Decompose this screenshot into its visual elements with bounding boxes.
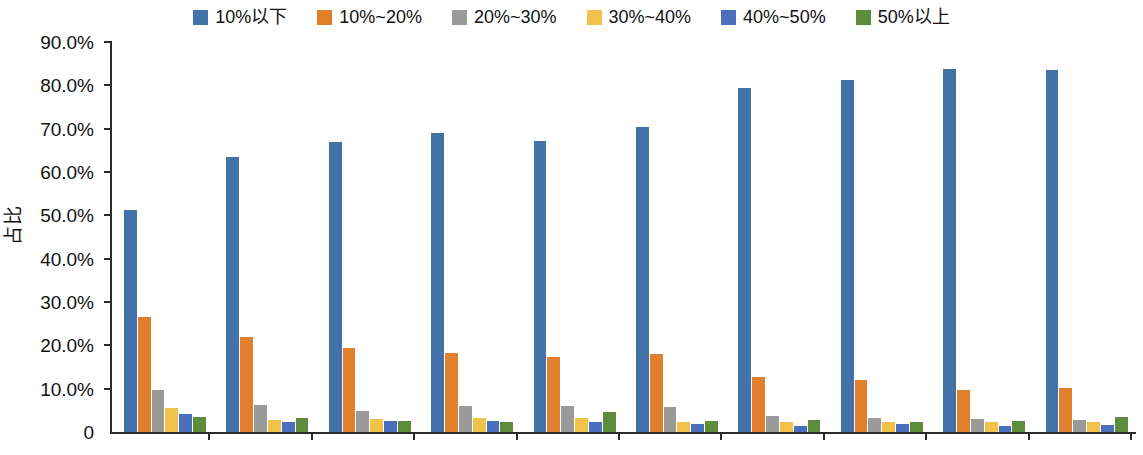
bar[interactable] <box>766 416 779 432</box>
bar[interactable] <box>500 422 513 432</box>
bar[interactable] <box>589 422 602 432</box>
legend-swatch-icon <box>587 10 602 25</box>
bar[interactable] <box>1012 421 1025 432</box>
bar[interactable] <box>636 127 649 433</box>
bar[interactable] <box>356 411 369 432</box>
bar[interactable] <box>985 422 998 432</box>
bar[interactable] <box>575 418 588 432</box>
bar[interactable] <box>431 133 444 432</box>
bar[interactable] <box>1073 420 1086 432</box>
bar[interactable] <box>329 142 342 432</box>
x-axis-tick-mark <box>311 432 313 440</box>
bar[interactable] <box>896 424 909 432</box>
bar[interactable] <box>459 406 472 432</box>
bar[interactable] <box>1059 388 1072 432</box>
bar[interactable] <box>268 420 281 432</box>
bar[interactable] <box>794 426 807 433</box>
bar[interactable] <box>138 317 151 432</box>
bar-group <box>841 42 924 432</box>
legend-item[interactable]: 50%以上 <box>856 8 950 26</box>
y-axis-tick-mark <box>104 301 112 303</box>
y-axis-tick-label: 60.0% <box>40 163 94 182</box>
bar[interactable] <box>603 412 616 432</box>
legend-label: 50%以上 <box>878 8 950 26</box>
bar[interactable] <box>780 422 793 432</box>
bar[interactable] <box>296 418 309 432</box>
bar-group <box>943 42 1026 432</box>
x-axis-tick-mark <box>618 432 620 440</box>
bar[interactable] <box>193 417 206 432</box>
bar[interactable] <box>124 210 137 432</box>
bar[interactable] <box>910 422 923 432</box>
y-axis-tick-label: 20.0% <box>40 336 94 355</box>
bar[interactable] <box>868 418 881 432</box>
legend-item[interactable]: 10%以下 <box>193 8 287 26</box>
y-axis-tick-mark <box>104 388 112 390</box>
x-axis-tick-mark <box>720 432 722 440</box>
y-axis-tick-label: 30.0% <box>40 293 94 312</box>
x-axis-tick-mark <box>516 432 518 440</box>
bar[interactable] <box>240 337 253 432</box>
x-axis-tick-mark <box>1130 432 1132 440</box>
x-axis-tick-mark <box>208 432 210 440</box>
bar[interactable] <box>882 422 895 432</box>
bar[interactable] <box>254 405 267 432</box>
bar[interactable] <box>282 422 295 432</box>
bar[interactable] <box>841 80 854 432</box>
y-axis-title: 占比 <box>4 205 24 245</box>
bar[interactable] <box>561 406 574 432</box>
bar[interactable] <box>738 88 751 432</box>
bar-group <box>124 42 207 432</box>
bar[interactable] <box>957 390 970 432</box>
chart-legend: 10%以下10%~20%20%~30%30%~40%40%~50%50%以上 <box>0 8 1143 26</box>
bar[interactable] <box>487 421 500 432</box>
bar-group <box>329 42 412 432</box>
bar[interactable] <box>971 419 984 432</box>
legend-item[interactable]: 30%~40% <box>587 8 692 26</box>
bar[interactable] <box>664 407 677 432</box>
y-axis-tick-mark <box>104 84 112 86</box>
bar[interactable] <box>677 422 690 432</box>
x-axis-tick-mark <box>1028 432 1030 440</box>
bar[interactable] <box>1046 70 1059 432</box>
bar[interactable] <box>808 420 821 432</box>
bar[interactable] <box>534 141 547 432</box>
bar[interactable] <box>445 353 458 432</box>
y-axis-tick-mark <box>104 41 112 43</box>
legend-swatch-icon <box>317 10 332 25</box>
bar[interactable] <box>1101 425 1114 432</box>
bar[interactable] <box>152 390 165 432</box>
bar[interactable] <box>343 348 356 433</box>
bar[interactable] <box>398 421 411 432</box>
bar[interactable] <box>1115 417 1128 432</box>
bar[interactable] <box>855 380 868 432</box>
bar[interactable] <box>943 69 956 432</box>
y-axis-tick-label: 70.0% <box>40 119 94 138</box>
legend-item[interactable]: 40%~50% <box>721 8 826 26</box>
plot-area: 2014年2015年2016年2017年2018年2019年2020年2021年… <box>110 42 1136 434</box>
y-axis-tick-label: 90.0% <box>40 33 94 52</box>
bar[interactable] <box>547 357 560 432</box>
bar[interactable] <box>1087 422 1100 432</box>
bar[interactable] <box>752 377 765 432</box>
bar-chart: 10%以下10%~20%20%~30%30%~40%40%~50%50%以上 9… <box>0 0 1143 455</box>
bar[interactable] <box>650 354 663 432</box>
bar[interactable] <box>999 426 1012 433</box>
legend-label: 20%~30% <box>474 8 557 26</box>
bar[interactable] <box>473 418 486 432</box>
y-axis-tick-mark <box>104 128 112 130</box>
bar[interactable] <box>165 408 178 432</box>
bar[interactable] <box>705 421 718 432</box>
y-axis-tick-label: 40.0% <box>40 249 94 268</box>
legend-label: 10%~20% <box>339 8 422 26</box>
y-axis-tick-label: 50.0% <box>40 206 94 225</box>
bar[interactable] <box>370 419 383 432</box>
legend-item[interactable]: 20%~30% <box>452 8 557 26</box>
bar[interactable] <box>226 157 239 432</box>
bar[interactable] <box>384 421 397 432</box>
y-axis-tick-label: 0 <box>83 423 94 442</box>
legend-item[interactable]: 10%~20% <box>317 8 422 26</box>
bar[interactable] <box>179 414 192 432</box>
bar[interactable] <box>691 424 704 432</box>
y-axis-tick-label: 80.0% <box>40 76 94 95</box>
